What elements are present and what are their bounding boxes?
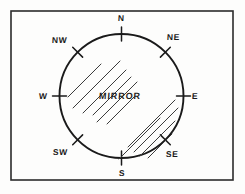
mirror-center-label: MIRROR: [99, 92, 142, 101]
compass-label-northwest: NW: [52, 36, 67, 45]
compass-label-northeast: NE: [167, 33, 180, 42]
compass-label-southwest: SW: [53, 148, 68, 157]
compass-label-west: W: [39, 92, 48, 101]
compass-label-south: S: [119, 169, 126, 178]
compass-label-north: N: [118, 14, 125, 23]
diagram-canvas: NNEESESSWWNW MIRROR: [0, 0, 245, 194]
compass-label-east: E: [192, 92, 199, 101]
compass-label-southeast: SE: [166, 150, 179, 159]
